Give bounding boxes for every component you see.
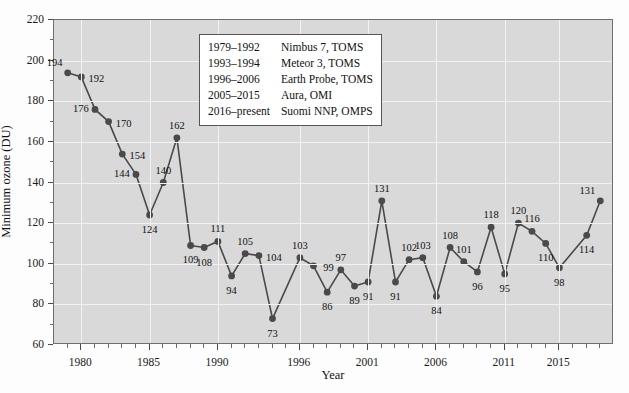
data-point-label: 98 (554, 276, 565, 287)
data-point-label: 144 (114, 168, 130, 179)
gridline-vertical (81, 20, 82, 343)
x-tick-minor (135, 344, 136, 348)
legend-row: 1996–2006Earth Probe, TOMS (208, 71, 373, 87)
data-point-label: 176 (73, 103, 89, 114)
legend-row: 2016–presentSuomi NNP, OMPS (208, 104, 373, 120)
x-tick-mark (217, 344, 218, 350)
data-point (597, 197, 604, 204)
legend-row: 1993–1994Meteor 3, TOMS (208, 55, 373, 71)
x-tick-minor (599, 344, 600, 348)
data-point (447, 244, 454, 251)
legend-row: 2005–2015Aura, OMI (208, 88, 373, 104)
x-tick-mark (299, 344, 300, 350)
data-point-label: 131 (374, 182, 390, 193)
data-point (228, 273, 235, 280)
x-tick-minor (67, 344, 68, 348)
data-point (474, 269, 481, 276)
y-tick-label: 160 (27, 135, 44, 147)
data-point-label: 84 (431, 305, 442, 316)
data-point (92, 106, 99, 113)
data-point (64, 69, 71, 76)
data-point (324, 289, 331, 296)
data-point-label: 89 (349, 295, 360, 306)
x-tick-minor (545, 344, 546, 348)
x-tick-minor (203, 344, 204, 348)
x-axis-title: Year (53, 368, 613, 383)
x-tick-label: 1996 (287, 356, 310, 368)
data-point-label: 105 (237, 235, 253, 246)
legend: 1979–1992Nimbus 7, TOMS1993–1994Meteor 3… (199, 34, 382, 126)
legend-instrument: Earth Probe, TOMS (281, 71, 373, 87)
x-tick-minor (94, 344, 95, 348)
data-point (119, 151, 126, 158)
x-tick-label: 1990 (205, 356, 228, 368)
data-point-label: 116 (524, 213, 539, 224)
y-tick-label: 120 (27, 216, 44, 228)
data-point-label: 194 (47, 56, 63, 67)
legend-period: 1993–1994 (208, 55, 281, 71)
y-tick-label: 140 (27, 176, 44, 188)
x-tick-minor (326, 344, 327, 348)
data-point-label: 114 (579, 244, 594, 255)
data-point-label: 91 (390, 291, 401, 302)
legend-instrument: Aura, OMI (281, 88, 373, 104)
x-tick-label: 2006 (424, 356, 447, 368)
x-tick-minor (394, 344, 395, 348)
data-point-label: 108 (196, 256, 212, 267)
legend-period: 1979–1992 (208, 39, 281, 55)
y-tick-label: 180 (27, 94, 44, 106)
x-tick-mark (435, 344, 436, 350)
x-tick-minor (517, 344, 518, 348)
data-point-label: 124 (142, 224, 158, 235)
y-axis: 2202001801601401201008060 (0, 19, 53, 344)
x-tick-minor (244, 344, 245, 348)
data-point-label: 111 (210, 223, 225, 234)
y-tick-label: 100 (27, 257, 44, 269)
x-tick-minor (313, 344, 314, 348)
x-tick-minor (340, 344, 341, 348)
data-point (187, 242, 194, 249)
data-point (337, 266, 344, 273)
chart-figure: Minimum ozone (DU) 220200180160140120100… (0, 0, 629, 393)
data-point (488, 224, 495, 231)
data-point-label: 86 (322, 301, 333, 312)
x-tick-mark (504, 344, 505, 350)
data-point-label: 96 (472, 280, 483, 291)
x-tick-minor (162, 344, 163, 348)
legend-table: 1979–1992Nimbus 7, TOMS1993–1994Meteor 3… (208, 39, 373, 120)
x-tick-mark (367, 344, 368, 350)
x-tick-minor (272, 344, 273, 348)
x-tick-minor (476, 344, 477, 348)
data-point (242, 250, 249, 257)
x-tick-minor (490, 344, 491, 348)
y-tick-label: 60 (33, 338, 45, 350)
gridline-vertical (559, 20, 560, 343)
legend-instrument: Meteor 3, TOMS (281, 55, 373, 71)
x-tick-label: 2015 (547, 356, 570, 368)
gridline-horizontal (54, 142, 612, 143)
gridline-horizontal (54, 183, 612, 184)
data-point-label: 101 (456, 243, 472, 254)
data-point-label: 97 (336, 251, 347, 262)
x-tick-minor (231, 344, 232, 348)
x-tick-mark (558, 344, 559, 350)
gridline-vertical (505, 20, 506, 343)
x-tick-minor (572, 344, 573, 348)
legend-row: 1979–1992Nimbus 7, TOMS (208, 39, 373, 55)
legend-instrument: Nimbus 7, TOMS (281, 39, 373, 55)
data-point (392, 279, 399, 286)
data-point (201, 244, 208, 251)
data-point-label: 162 (169, 119, 185, 130)
x-tick-minor (463, 344, 464, 348)
data-point (583, 232, 590, 239)
data-point (133, 171, 140, 178)
x-tick-minor (422, 344, 423, 348)
data-point (269, 315, 276, 322)
data-point-label: 110 (538, 252, 553, 263)
gridline-horizontal (54, 304, 612, 305)
x-tick-label: 2001 (356, 356, 379, 368)
x-tick-minor (381, 344, 382, 348)
data-point-label: 154 (129, 150, 145, 161)
data-point-label: 103 (292, 239, 308, 250)
x-tick-minor (531, 344, 532, 348)
